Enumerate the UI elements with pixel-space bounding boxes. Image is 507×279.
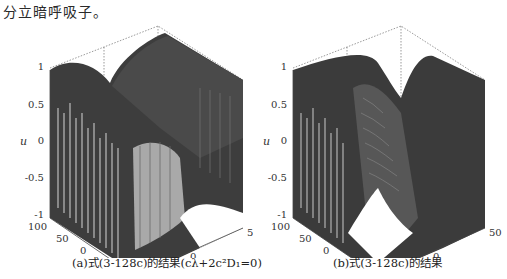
- figure-b-surface-plot: 1 0.5 0 -0.5 -1 u 100 50 0 -50 -100 t -5…: [253, 18, 506, 258]
- svg-text:-0.5: -0.5: [268, 172, 287, 183]
- figure-b-z-label: u: [263, 135, 270, 148]
- svg-text:1: 1: [38, 61, 44, 72]
- svg-text:-1: -1: [277, 209, 287, 220]
- svg-text:0: 0: [281, 135, 287, 146]
- svg-text:-1: -1: [34, 209, 44, 220]
- svg-text:0.5: 0.5: [28, 99, 44, 110]
- figure-a-caption: (a)式(3-128c)的结果(cλ+2c²D₁=0): [72, 254, 262, 270]
- figure-b-z-ticks: 1 0.5 0 -0.5 -1: [268, 61, 287, 220]
- figure-b-t-label: t: [319, 256, 324, 258]
- svg-text:-0.5: -0.5: [25, 172, 44, 183]
- figure-a-z-ticks: 1 0.5 0 -0.5 -1: [25, 61, 44, 220]
- svg-text:50: 50: [489, 227, 502, 238]
- svg-text:50: 50: [56, 233, 69, 244]
- svg-text:100: 100: [271, 221, 290, 232]
- svg-text:100: 100: [28, 221, 47, 232]
- svg-text:0.5: 0.5: [271, 99, 287, 110]
- figure-b-caption: (b)式(3-128c)的结果: [333, 254, 442, 270]
- svg-text:1: 1: [281, 61, 287, 72]
- figure-a-z-label: u: [20, 135, 27, 148]
- svg-text:50: 50: [299, 233, 312, 244]
- figure-a-surface-plot: 1 0.5 0 -0.5 -1 u 100 50 0 -50 -100 t -5…: [0, 18, 253, 258]
- svg-text:0: 0: [323, 245, 329, 256]
- svg-text:0: 0: [38, 135, 44, 146]
